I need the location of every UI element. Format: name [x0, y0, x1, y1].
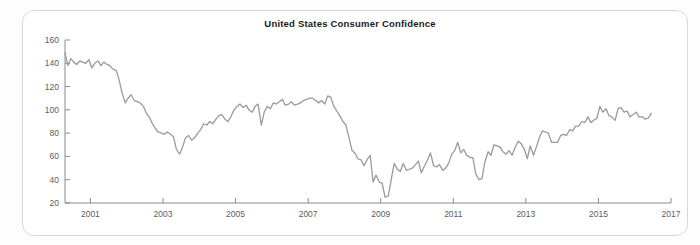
y-tick-label: 160	[17, 35, 59, 45]
x-tick-label: 2003	[154, 209, 173, 219]
chart-screenshot: Based on data from The Conference Board …	[0, 0, 700, 245]
series-line-consumer-confidence	[65, 53, 651, 197]
y-tick-label: 40	[17, 175, 59, 185]
x-axis-ticks	[90, 198, 671, 203]
x-tick-label: 2007	[299, 209, 318, 219]
data-series-group	[65, 53, 651, 197]
x-tick-label: 2011	[444, 209, 462, 219]
x-tick-label: 2001	[81, 209, 100, 219]
x-tick-label: 2009	[371, 209, 390, 219]
y-tick-label: 60	[17, 151, 59, 161]
x-tick-label: 2013	[516, 209, 535, 219]
x-tick-label: 2017	[662, 209, 681, 219]
y-tick-label: 80	[17, 128, 59, 138]
y-tick-label: 120	[17, 82, 59, 92]
y-tick-label: 140	[17, 58, 59, 68]
plot-area: 20406080100120140160 2001200320052007200…	[0, 0, 700, 245]
x-tick-label: 2015	[589, 209, 608, 219]
axes-group	[65, 40, 671, 203]
y-tick-label: 20	[17, 198, 59, 208]
y-tick-label: 100	[17, 105, 59, 115]
x-tick-label: 2005	[226, 209, 245, 219]
